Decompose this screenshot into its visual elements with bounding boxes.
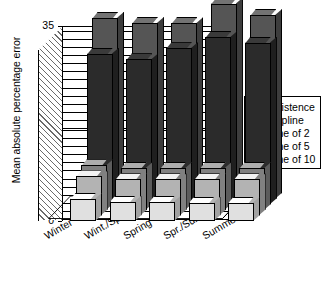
bar [70, 199, 96, 221]
bar-front-face [228, 203, 254, 221]
bar-front-face [189, 203, 215, 221]
bar [110, 202, 136, 222]
bar-front-face [149, 202, 175, 222]
bar [228, 203, 254, 221]
y-axis-line [62, 26, 63, 221]
bar-front-face [70, 199, 96, 221]
bar-front-face [110, 202, 136, 222]
depth-axis-line [38, 50, 39, 221]
bar [189, 203, 215, 221]
plot-side-wall [38, 26, 63, 220]
y-axis-title: Mean absolute percentage error [10, 15, 22, 205]
chart-figure: Mean absolute percentage error 051015202… [0, 0, 334, 286]
bar [149, 202, 175, 222]
y-axis-tick-label: 35 [32, 19, 54, 31]
